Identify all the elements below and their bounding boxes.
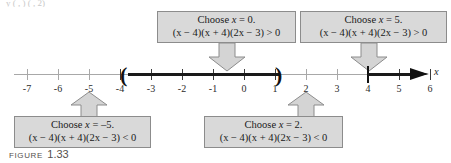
axis-variable-label: x [434,66,439,77]
callout-x-equals-minus-5-line2: (x − 4)(x + 4)(2x − 3) < 0 [15,132,150,145]
ticklabel-1: 1 [265,83,285,94]
ticklabel-0: 0 [234,83,254,94]
ticklabel-4: 4 [358,83,378,94]
callout-x-equals-2[interactable]: Choose x = 2. (x − 4)(x + 4)(2x − 3) < 0 [204,116,343,148]
arrow-down-to-0 [208,43,246,72]
ticklabel--4: -4 [110,83,130,94]
shaded-interval-neg4-to-1point5 [128,73,280,76]
ticklabel--6: -6 [48,83,68,94]
shaded-interval-4-to-infinity [368,73,415,76]
tick-3 [337,69,338,80]
callout-x-equals-0-line1: Choose x = 0. [158,14,295,27]
ticklabel--1: -1 [203,83,223,94]
tick-2 [306,69,307,80]
figure-caption-word: FIGURE [9,151,43,160]
callout-x-equals-5[interactable]: Choose x = 5. (x − 4)(x + 4)(2x − 3) > 0 [300,11,447,43]
figure-caption-number: 1.33 [47,148,68,160]
tick--6 [58,69,59,80]
figure-caption: FIGURE 1.33 [9,144,69,162]
ticklabel-5: 5 [389,83,409,94]
callout-x-equals-2-line1: Choose x = 2. [205,119,342,132]
tick-6 [430,69,431,80]
callout-x-equals-0-line2: (x − 4)(x + 4)(2x − 3) > 0 [158,27,295,40]
ticklabel--3: -3 [141,83,161,94]
clipped-page-text: y ( , ) ( , 2) [0,0,451,7]
callout-x-equals-2-line2: (x − 4)(x + 4)(2x − 3) < 0 [205,132,342,145]
tick--5 [89,69,90,80]
clipped-page-text-left: y ( , ) ( , 2) [6,0,45,7]
arrow-up-to--5 [70,92,108,118]
arrow-up-to-2 [287,92,325,118]
callout-x-equals-5-line2: (x − 4)(x + 4)(2x − 3) > 0 [301,27,446,40]
callout-x-equals-5-line1: Choose x = 5. [301,14,446,27]
ticklabel--2: -2 [172,83,192,94]
callout-x-equals-minus-5-line1: Choose x = –5. [15,119,150,132]
figure-container: y ( , ) ( , 2) Choose x = 0. (x − 4)(x +… [0,0,451,163]
ticklabel-6: 6 [420,83,440,94]
callout-x-equals-0[interactable]: Choose x = 0. (x − 4)(x + 4)(2x − 3) > 0 [157,11,296,43]
ticklabel--7: -7 [17,83,37,94]
ticklabel-3: 3 [327,83,347,94]
tick--7 [27,69,28,80]
